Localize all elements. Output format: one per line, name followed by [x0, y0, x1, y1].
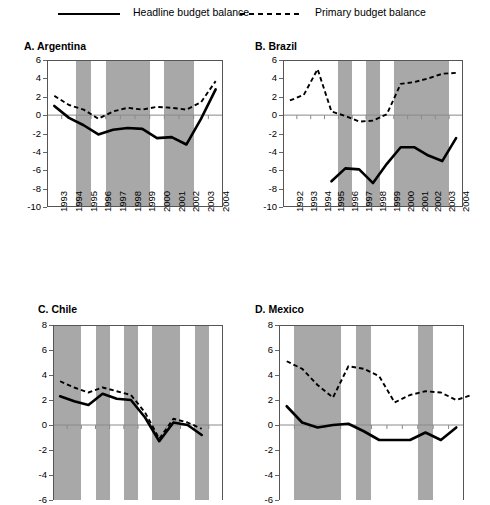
y-tick-mark	[49, 375, 53, 376]
y-tick-mark	[43, 97, 47, 98]
x-axis-tick-label: 1998	[132, 191, 143, 212]
y-axis-tick-label: 2	[13, 91, 41, 102]
y-tick-mark	[279, 170, 283, 171]
x-axis-tick-label: 2001	[176, 191, 187, 212]
y-axis-tick-label: 2	[19, 394, 47, 405]
y-axis-tick-label: 4	[249, 72, 277, 83]
y-axis-tick-label: -2	[249, 128, 277, 139]
y-axis-tick-label: -2	[19, 444, 47, 455]
legend-swatch-solid-line	[58, 13, 120, 15]
y-tick-mark	[43, 60, 47, 61]
y-axis-tick-label: 0	[13, 109, 41, 120]
x-axis-tick-label: 1993	[58, 191, 69, 212]
x-axis-tick-label: 2001	[419, 191, 430, 212]
plot-area-argentina	[47, 60, 223, 207]
y-tick-mark	[275, 375, 279, 376]
y-tick-mark	[49, 325, 53, 326]
x-axis-tick-label: 1997	[117, 191, 128, 212]
y-axis-tick-label: -8	[249, 183, 277, 194]
y-tick-mark	[43, 78, 47, 79]
y-tick-mark	[275, 475, 279, 476]
y-tick-mark	[275, 425, 279, 426]
y-axis-tick-label: -4	[19, 469, 47, 480]
y-tick-mark	[275, 325, 279, 326]
x-axis-tick-label: 1993	[308, 191, 319, 212]
legend-item-primary: Primary budget balance	[240, 0, 490, 34]
x-axis-tick-label: 2002	[432, 191, 443, 212]
y-tick-mark	[279, 189, 283, 190]
panel-argentina: A. Argentina 6420-2-4-6-8-10199319941995…	[0, 34, 245, 284]
y-tick-mark	[275, 400, 279, 401]
y-axis-tick-label: 4	[13, 72, 41, 83]
x-axis-tick-label: 1994	[73, 191, 84, 212]
panel-brazil: B. Brazil 6420-2-4-6-8-10199219931994199…	[245, 34, 490, 284]
x-axis-tick-label: 2004	[460, 191, 471, 212]
y-tick-mark	[43, 152, 47, 153]
y-tick-mark	[279, 60, 283, 61]
y-tick-mark	[43, 189, 47, 190]
y-axis-tick-label: -4	[249, 146, 277, 157]
series-line-headline	[331, 138, 456, 183]
y-tick-mark	[279, 115, 283, 116]
plot-area-chile	[53, 325, 223, 500]
series-line-headline	[60, 394, 202, 442]
x-axis-tick-label: 1994	[322, 191, 333, 212]
plot-area-mexico	[279, 325, 464, 500]
series-line-primary	[54, 81, 215, 119]
y-tick-mark	[43, 170, 47, 171]
y-tick-mark	[275, 350, 279, 351]
y-tick-mark	[43, 115, 47, 116]
legend-label-primary: Primary budget balance	[315, 6, 426, 18]
x-axis-tick-label: 1997	[363, 191, 374, 212]
y-axis-tick-label: -2	[13, 128, 41, 139]
y-tick-mark	[279, 97, 283, 98]
panel-chile: C. Chile 86420-2-4-6	[0, 295, 245, 481]
y-axis-tick-label: -4	[13, 146, 41, 157]
x-axis-tick-label: 1999	[391, 191, 402, 212]
x-axis-tick-label: 2003	[205, 191, 216, 212]
y-axis-tick-label: 0	[245, 419, 273, 430]
y-tick-mark	[49, 475, 53, 476]
x-axis-tick-label: 1996	[349, 191, 360, 212]
chart-legend: Headline budget balance Primary budget b…	[0, 0, 490, 34]
panel-title-chile: C. Chile	[38, 303, 77, 315]
x-axis-tick-label: 2000	[161, 191, 172, 212]
y-axis-tick-label: 6	[249, 54, 277, 65]
y-tick-mark	[279, 207, 283, 208]
series-canvas	[283, 60, 463, 207]
y-axis-tick-label: -6	[245, 494, 273, 505]
x-axis-tick-label: 1998	[377, 191, 388, 212]
y-axis-tick-label: -6	[13, 164, 41, 175]
y-tick-mark	[49, 350, 53, 351]
y-tick-mark	[275, 500, 279, 501]
legend-swatch-dashed-line	[240, 13, 302, 15]
y-tick-mark	[43, 207, 47, 208]
series-line-primary	[290, 69, 456, 121]
y-axis-tick-label: 4	[245, 369, 273, 380]
x-axis-tick-label: 2000	[405, 191, 416, 212]
x-axis-tick-label: 1996	[102, 191, 113, 212]
y-axis-tick-label: 6	[13, 54, 41, 65]
y-tick-mark	[279, 152, 283, 153]
y-tick-mark	[279, 134, 283, 135]
x-axis-tick-label: 2002	[190, 191, 201, 212]
y-tick-mark	[279, 78, 283, 79]
y-axis-tick-label: 8	[19, 319, 47, 330]
y-axis-tick-label: -10	[13, 201, 41, 212]
y-axis-tick-label: 2	[245, 394, 273, 405]
series-line-headline	[287, 406, 457, 440]
series-line-primary	[287, 361, 472, 402]
series-canvas	[47, 60, 223, 207]
y-axis-tick-label: -6	[249, 164, 277, 175]
legend-label-headline: Headline budget balance	[133, 6, 249, 18]
series-canvas	[279, 325, 464, 500]
y-tick-mark	[49, 400, 53, 401]
panel-title-mexico: D. Mexico	[255, 303, 304, 315]
y-axis-tick-label: 4	[19, 369, 47, 380]
x-axis-tick-label: 1999	[146, 191, 157, 212]
series-line-primary	[60, 381, 202, 439]
y-axis-tick-label: 6	[19, 344, 47, 355]
x-axis-tick-label: 1995	[88, 191, 99, 212]
y-axis-tick-label: 0	[19, 419, 47, 430]
panel-title-argentina: A. Argentina	[24, 40, 86, 52]
